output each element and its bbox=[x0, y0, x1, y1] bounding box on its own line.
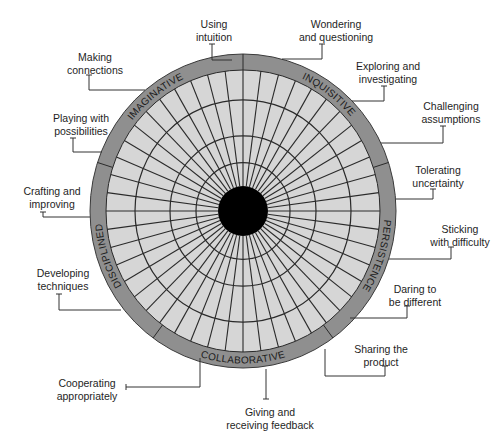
leader-line bbox=[43, 212, 90, 217]
leader-line bbox=[381, 126, 443, 143]
creativity-wheel-diagram: IMAGINATIVEINQUISITIVEPERSISTENCECOLLABO… bbox=[0, 0, 501, 443]
leader-line bbox=[282, 44, 322, 59]
habit-label: Making connections bbox=[57, 51, 133, 76]
leader-line bbox=[396, 189, 433, 199]
habit-label: Developing techniques bbox=[28, 267, 98, 292]
habit-label: Daring to be different bbox=[378, 283, 452, 308]
habit-label: Cooperating appropriately bbox=[47, 377, 127, 402]
grid-area bbox=[106, 70, 380, 352]
habit-label: Wondering and questioning bbox=[283, 18, 389, 43]
habit-label: Giving and receiving feedback bbox=[215, 406, 325, 431]
habit-label: Sharing the product bbox=[345, 343, 417, 368]
habit-label: Challenging assumptions bbox=[410, 100, 492, 125]
habit-label: Exploring and investigating bbox=[345, 60, 431, 85]
habit-label: Tolerating uncertainty bbox=[402, 164, 474, 189]
leader-line bbox=[352, 86, 384, 101]
leader-line bbox=[59, 294, 121, 310]
leader-line bbox=[389, 247, 451, 259]
habit-label: Using intuition bbox=[184, 18, 244, 43]
habit-label: Playing with possibilities bbox=[42, 112, 120, 137]
leader-line bbox=[89, 75, 145, 90]
leader-line bbox=[126, 358, 200, 387]
leader-line bbox=[73, 138, 102, 152]
center-hub bbox=[218, 186, 268, 236]
habit-label: Sticking with difficulty bbox=[418, 223, 501, 248]
habit-label: Crafting and improving bbox=[14, 185, 90, 210]
